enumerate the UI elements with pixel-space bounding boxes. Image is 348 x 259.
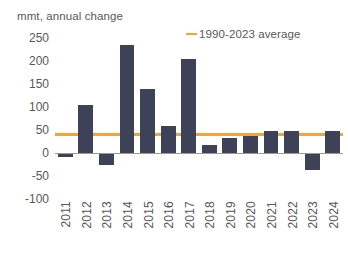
x-axis-tick-label: 2019 xyxy=(224,201,238,229)
bar-slot xyxy=(281,38,302,199)
bar-slot xyxy=(55,38,76,199)
bar-slot xyxy=(261,38,282,199)
x-axis-tick-label: 2015 xyxy=(142,201,156,229)
x-axis-tick-label: 2018 xyxy=(203,201,217,229)
y-axis-tick-label: 150 xyxy=(29,77,49,91)
y-axis-tick-label: 50 xyxy=(36,123,49,137)
zero-axis-line xyxy=(55,153,343,154)
x-axis-tick-label: 2023 xyxy=(306,201,320,229)
bar[interactable] xyxy=(181,59,196,153)
bar-slot xyxy=(322,38,343,199)
bar-slot xyxy=(199,38,220,199)
x-axis-tick-label: 2022 xyxy=(286,201,300,229)
bar-chart: mmt, annual change 1990-2023 average 250… xyxy=(0,0,348,259)
bar[interactable] xyxy=(305,153,320,170)
bar[interactable] xyxy=(243,136,258,153)
y-axis-tick-label: 0 xyxy=(42,146,49,160)
y-axis-tick-label: -100 xyxy=(25,192,49,206)
bar[interactable] xyxy=(202,145,217,153)
legend-line-marker-icon xyxy=(186,33,197,36)
x-axis-tick-label: 2020 xyxy=(244,201,258,229)
y-axis-tick-label: 100 xyxy=(29,100,49,114)
bar-slot xyxy=(178,38,199,199)
bar[interactable] xyxy=(161,126,176,153)
y-axis-tick-label: 250 xyxy=(29,31,49,45)
x-axis-tick-label: 2013 xyxy=(100,201,114,229)
bar-slot xyxy=(158,38,179,199)
bar-slot xyxy=(76,38,97,199)
bar[interactable] xyxy=(78,105,93,153)
bar[interactable] xyxy=(284,131,299,153)
chart-axis-title: mmt, annual change xyxy=(17,10,123,22)
bar[interactable] xyxy=(140,89,155,153)
bar-slot xyxy=(302,38,323,199)
x-axis-tick-label: 2012 xyxy=(80,201,94,229)
bar-slot xyxy=(240,38,261,199)
bar[interactable] xyxy=(99,153,114,165)
x-axis-tick-label: 2021 xyxy=(265,201,279,229)
bar-series xyxy=(55,38,343,199)
x-axis-tick-label: 2014 xyxy=(121,201,135,229)
y-axis-tick-label: 200 xyxy=(29,54,49,68)
plot-area: 250200150100500-50-100 xyxy=(55,38,343,199)
y-axis-tick-label: -50 xyxy=(32,169,49,183)
bar[interactable] xyxy=(325,131,340,153)
bar-slot xyxy=(220,38,241,199)
bar-slot xyxy=(137,38,158,199)
x-axis-tick-label: 2011 xyxy=(59,201,73,228)
bar[interactable] xyxy=(264,131,279,153)
x-axis-tick-label: 2024 xyxy=(327,201,341,229)
x-axis-tick-label: 2017 xyxy=(183,201,197,229)
bar[interactable] xyxy=(120,45,135,153)
x-axis-tick-label: 2016 xyxy=(162,201,176,229)
bar-slot xyxy=(96,38,117,199)
bar[interactable] xyxy=(222,138,237,153)
bar-slot xyxy=(117,38,138,199)
x-axis-tick-labels: 2011201220132014201520162017201820192020… xyxy=(55,201,343,259)
